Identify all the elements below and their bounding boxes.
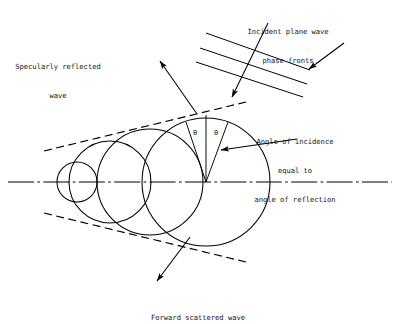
angle-label-line-3: angle of reflection <box>220 195 370 205</box>
specular-reflection-arrow <box>160 61 197 114</box>
angle-label-line-1: Angle of incidence <box>220 137 370 147</box>
forward-scattered-wave-label: Forward scattered wave <box>113 294 283 324</box>
incident-label-line-1: Incident plane wave <box>213 27 363 37</box>
forward-label-line-1: Forward scattered wave <box>113 313 283 323</box>
forward-scatter-arrow <box>157 237 190 281</box>
theta-left-symbol: θ <box>193 129 197 139</box>
specularly-reflected-wave-label: Specularly reflected wave <box>0 43 133 120</box>
incident-plane-wave-label: Incident plane wave phase fronts <box>213 8 363 85</box>
angle-label-line-2: equal to <box>220 166 370 176</box>
angle-of-incidence-label: Angle of incidence equal to angle of ref… <box>220 118 370 224</box>
specular-label-line-1: Specularly reflected <box>0 62 133 72</box>
specular-label-line-2: wave <box>0 91 133 101</box>
incident-label-line-2: phase fronts <box>213 56 363 66</box>
theta-right-symbol: θ <box>214 129 218 139</box>
